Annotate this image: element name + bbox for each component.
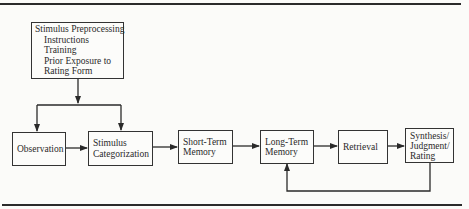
observation-box: Observation xyxy=(12,132,66,166)
preprocessing-box: Stimulus Preprocessing Instructions Trai… xyxy=(31,22,124,79)
synthesis-box: Synthesis/ Judgment/ Rating xyxy=(405,128,454,163)
retrieval-box: Retrieval xyxy=(338,130,388,164)
categorization-label: Stimulus xyxy=(93,138,148,149)
preprocessing-item: Rating Form xyxy=(35,66,119,77)
short-term-memory-box: Short-Term Memory xyxy=(178,130,233,164)
preprocessing-item: Instructions xyxy=(35,35,119,46)
categorization-box: Stimulus Categorization xyxy=(88,131,153,166)
synthesis-label: Judgment/ xyxy=(410,141,449,151)
synthesis-label: Rating xyxy=(410,151,449,161)
feedback-arrow xyxy=(287,162,430,191)
observation-label: Observation xyxy=(17,144,61,155)
preprocessing-item: Prior Exposure to xyxy=(35,56,119,67)
long-term-memory-box: Long-Term Memory xyxy=(260,130,314,164)
preprocessing-title: Stimulus Preprocessing xyxy=(35,24,119,35)
categorization-label: Categorization xyxy=(93,149,148,160)
synthesis-label: Synthesis/ xyxy=(410,131,449,141)
short-term-label: Memory xyxy=(183,147,228,158)
long-term-label: Memory xyxy=(265,147,309,158)
long-term-label: Long-Term xyxy=(265,137,309,148)
short-term-label: Short-Term xyxy=(183,137,228,148)
retrieval-label: Retrieval xyxy=(343,142,383,153)
preprocessing-item: Training xyxy=(35,45,119,56)
